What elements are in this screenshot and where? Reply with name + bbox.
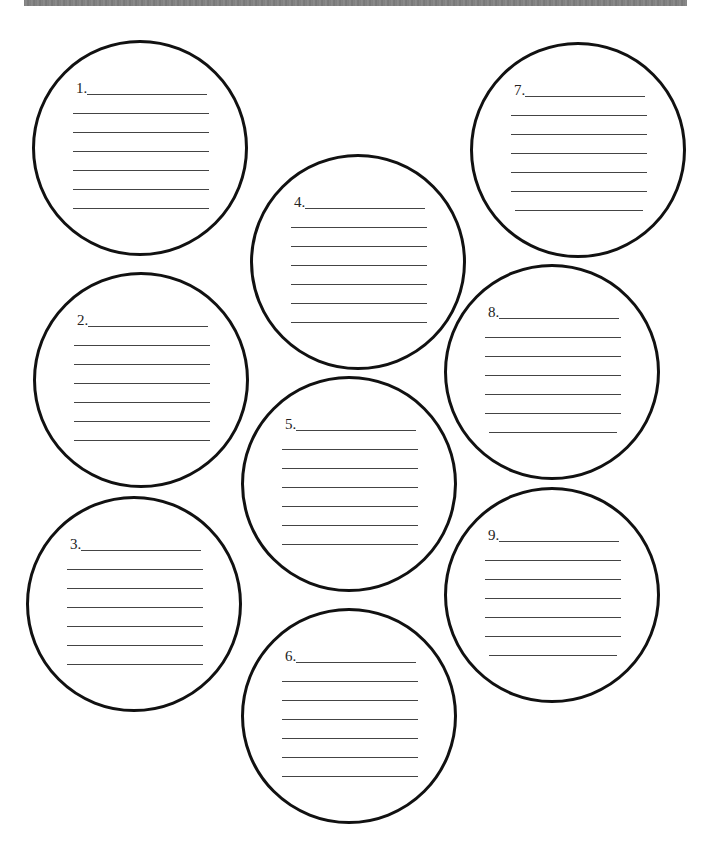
bubble-writing-line[interactable] [73, 132, 209, 133]
bubble-number-label: 7. [514, 83, 525, 98]
bubble-writing-line[interactable] [485, 337, 621, 338]
bubble-writing-line[interactable] [67, 607, 203, 608]
bubble-writing-line[interactable] [291, 246, 427, 247]
bubble-writing-line[interactable] [67, 626, 203, 627]
bubble-writing-line[interactable] [282, 525, 418, 526]
bubble-title-blank[interactable] [499, 541, 619, 542]
bubble-title-blank[interactable] [81, 550, 201, 551]
bubble-writing-line[interactable] [291, 284, 427, 285]
bubble-writing-line[interactable] [282, 700, 418, 701]
bubble-writing-line[interactable] [73, 113, 209, 114]
bubble-writing-line[interactable] [485, 598, 621, 599]
bubble-writing-line[interactable] [485, 636, 621, 637]
bubble-writing-line[interactable] [282, 544, 418, 545]
bubble-writing-line[interactable] [67, 664, 203, 665]
bubble-writing-line[interactable] [485, 375, 621, 376]
bubble-writing-line[interactable] [291, 322, 427, 323]
bubble-writing-line[interactable] [67, 569, 203, 570]
bubble-4 [250, 154, 466, 370]
bubble-number-label: 8. [488, 305, 499, 320]
bubble-writing-line[interactable] [489, 655, 617, 656]
bubble-title-blank[interactable] [296, 430, 416, 431]
bubble-writing-line[interactable] [282, 776, 418, 777]
bubble-writing-line[interactable] [291, 227, 427, 228]
bubble-writing-line[interactable] [511, 134, 647, 135]
bubble-writing-line[interactable] [511, 153, 647, 154]
bubble-writing-line[interactable] [282, 487, 418, 488]
bubble-writing-line[interactable] [485, 617, 621, 618]
bubble-title-blank[interactable] [87, 94, 207, 95]
bubble-title-blank[interactable] [499, 318, 619, 319]
bubble-title-blank[interactable] [525, 96, 645, 97]
bubble-writing-line[interactable] [73, 170, 209, 171]
bubble-writing-line[interactable] [291, 303, 427, 304]
bubble-number-label: 1. [76, 81, 87, 96]
bubble-writing-line[interactable] [67, 645, 203, 646]
bubble-writing-line[interactable] [74, 440, 210, 441]
bubble-number-label: 9. [488, 528, 499, 543]
bubble-writing-line[interactable] [485, 413, 621, 414]
bubble-3 [26, 496, 242, 712]
bubble-writing-line[interactable] [282, 449, 418, 450]
bubble-2 [33, 272, 249, 488]
bubble-writing-line[interactable] [511, 115, 647, 116]
bubble-writing-line[interactable] [73, 151, 209, 152]
bubble-writing-line[interactable] [74, 364, 210, 365]
bubble-title-blank[interactable] [296, 662, 416, 663]
bubble-writing-line[interactable] [282, 738, 418, 739]
bubble-writing-line[interactable] [282, 468, 418, 469]
bubble-writing-line[interactable] [489, 432, 617, 433]
bubble-writing-line[interactable] [282, 757, 418, 758]
bubble-writing-line[interactable] [282, 719, 418, 720]
bubble-1 [32, 40, 248, 256]
bubble-5 [241, 376, 457, 592]
bubble-9 [444, 487, 660, 703]
bubble-title-blank[interactable] [88, 326, 208, 327]
bubble-writing-line[interactable] [73, 189, 209, 190]
bubble-number-label: 3. [70, 537, 81, 552]
bubble-writing-line[interactable] [511, 172, 647, 173]
bubble-writing-line[interactable] [74, 402, 210, 403]
bubble-8 [444, 264, 660, 480]
bubble-writing-line[interactable] [515, 210, 643, 211]
bubble-6 [241, 608, 457, 824]
bubble-writing-line[interactable] [282, 681, 418, 682]
bubble-writing-line[interactable] [282, 506, 418, 507]
page-header-bar [24, 0, 687, 6]
bubble-title-blank[interactable] [305, 208, 425, 209]
bubble-writing-line[interactable] [485, 394, 621, 395]
bubble-writing-line[interactable] [67, 588, 203, 589]
bubble-writing-line[interactable] [291, 265, 427, 266]
bubble-number-label: 6. [285, 649, 296, 664]
bubble-number-label: 4. [294, 195, 305, 210]
bubble-writing-line[interactable] [74, 421, 210, 422]
bubble-7 [470, 42, 686, 258]
bubble-writing-line[interactable] [485, 356, 621, 357]
bubble-number-label: 2. [77, 313, 88, 328]
bubble-writing-line[interactable] [485, 579, 621, 580]
bubble-writing-line[interactable] [485, 560, 621, 561]
bubble-writing-line[interactable] [74, 383, 210, 384]
bubble-writing-line[interactable] [511, 191, 647, 192]
bubble-writing-line[interactable] [74, 345, 210, 346]
bubble-writing-line[interactable] [73, 208, 209, 209]
bubble-number-label: 5. [285, 417, 296, 432]
